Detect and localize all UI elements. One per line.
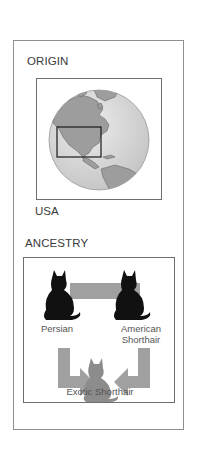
exotic-shorthair-label: Exotic Shorthair [44,386,156,397]
origin-country: USA [35,205,59,217]
origin-heading: ORIGIN [27,55,69,67]
origin-globe-map [36,78,162,200]
ancestry-diagram: Persian American Shorthair Exotic Shorth… [23,257,175,403]
american-shorthair-cat-icon [114,270,150,320]
american-shorthair-label-line1: American [110,323,172,334]
ancestry-heading: ANCESTRY [25,237,88,249]
american-shorthair-label-line2: Shorthair [110,334,172,345]
persian-label: Persian [32,323,82,334]
globe-icon [37,79,161,199]
